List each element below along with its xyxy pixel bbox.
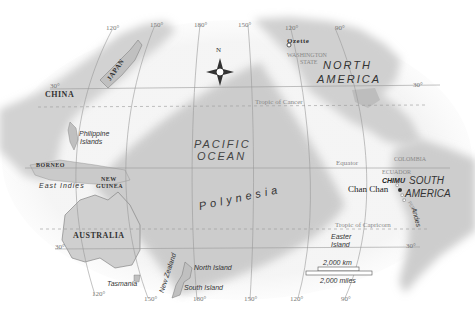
country-label: GUINEA — [96, 183, 123, 189]
place-label-east-indies: East Indies — [39, 182, 85, 189]
country-label-colombia: COLOMBIA — [394, 156, 426, 162]
ocean-label-line1: PACIFIC — [194, 139, 251, 150]
equator-label: Equator — [336, 160, 358, 167]
place-label-south-island: South Island — [184, 284, 223, 291]
continent-label: AMERICA — [405, 189, 451, 199]
lat-label: 30° — [413, 82, 423, 89]
scale-km-label: 2,000 km — [323, 259, 352, 266]
continent-label: NORTH — [323, 60, 372, 71]
scale-bar-miles — [306, 271, 372, 275]
culture-label-chimu: CHIMU — [382, 177, 405, 184]
continent-label: AMERICA — [317, 74, 381, 85]
lon-label: 120° — [106, 25, 119, 32]
scale-bar-km — [318, 267, 359, 271]
place-label-ozette: Ozette — [287, 38, 309, 45]
place-label: Islands — [80, 138, 102, 145]
place-label: Island — [331, 241, 350, 248]
lon-label: 120° — [285, 25, 298, 32]
lon-label: 120° — [92, 291, 105, 298]
state-label: WASHINGTON — [287, 52, 327, 58]
continent-label: AUSTRALIA — [73, 232, 125, 240]
lat-label: 30° — [50, 83, 60, 90]
place-label: Philippine — [79, 130, 109, 137]
place-label-chan-chan: Chan Chan — [348, 185, 388, 194]
lon-label: 180° — [193, 296, 206, 303]
lon-label: 180° — [194, 22, 207, 29]
lon-label: 90° — [335, 25, 345, 32]
tropic-of-cancer-label: Tropic of Cancer — [255, 99, 303, 106]
lon-label: 90° — [341, 296, 351, 303]
country-label-china: CHINA — [45, 91, 74, 99]
country-label-borneo: BORNEO — [36, 162, 65, 168]
place-label-tasmania: Tasmania — [107, 280, 137, 287]
lon-label: 150° — [244, 296, 257, 303]
ocean-label-line2: OCEAN — [197, 151, 246, 162]
continent-label: SOUTH — [409, 176, 444, 186]
lon-label: 120° — [290, 296, 303, 303]
compass-north-label: N — [216, 47, 221, 54]
place-label: Easter — [331, 233, 351, 240]
lon-label: 150° — [238, 22, 251, 29]
tropic-of-capricorn-label: Tropic of Capricorn — [335, 222, 391, 229]
chan-chan-marker — [398, 188, 402, 192]
lon-label: 150° — [150, 22, 163, 29]
lat-label: 30° — [55, 244, 65, 251]
lon-label: 150° — [144, 296, 157, 303]
country-label: NEW — [101, 176, 117, 182]
state-label: STATE — [300, 59, 318, 65]
lat-label: 30° — [406, 243, 416, 250]
place-label-north-island: North Island — [194, 264, 232, 271]
country-label-ecuador: ECUADOR — [382, 169, 411, 175]
scale-miles-label: 2,000 miles — [320, 277, 356, 284]
